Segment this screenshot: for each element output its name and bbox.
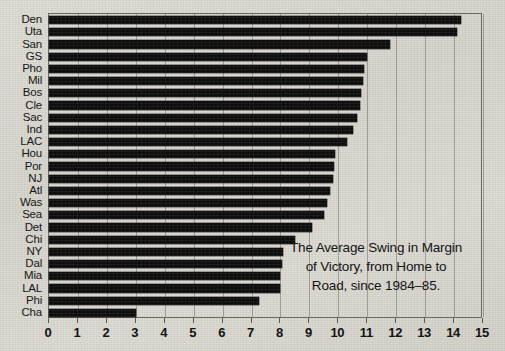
bar-san xyxy=(49,40,390,48)
x-tick-3 xyxy=(135,318,136,323)
bar-row xyxy=(49,65,481,73)
bar-ny xyxy=(49,248,283,256)
bar-row xyxy=(49,53,481,61)
x-tick-label-3: 3 xyxy=(131,325,138,340)
x-tick-label-9: 9 xyxy=(305,325,312,340)
bar-row xyxy=(49,175,481,183)
bar-row xyxy=(49,211,481,219)
caption-line-3: Road, since 1984–85. xyxy=(262,276,490,295)
bar-atl xyxy=(49,187,330,195)
x-tick-1 xyxy=(77,318,78,323)
bar-sea xyxy=(49,211,324,219)
bar-hou xyxy=(49,150,335,158)
x-tick-label-10: 10 xyxy=(330,325,344,340)
bar-row xyxy=(49,101,481,109)
y-tick-label-san: San xyxy=(22,38,42,50)
y-tick-label-was: Was xyxy=(20,196,42,208)
y-tick-label-dal: Dal xyxy=(25,257,42,269)
x-tick-label-13: 13 xyxy=(417,325,431,340)
bar-ind xyxy=(49,126,353,134)
x-tick-label-15: 15 xyxy=(475,325,489,340)
bar-row xyxy=(49,40,481,48)
caption-line-1: The Average Swing in Margin xyxy=(262,238,490,257)
bar-uta xyxy=(49,28,457,36)
bar-det xyxy=(49,223,312,231)
bar-mil xyxy=(49,77,363,85)
x-tick-label-14: 14 xyxy=(446,325,460,340)
x-tick-12 xyxy=(395,318,396,323)
bar-chi xyxy=(49,236,295,244)
bar-row xyxy=(49,114,481,122)
bar-row xyxy=(49,187,481,195)
x-tick-11 xyxy=(366,318,367,323)
bar-sac xyxy=(49,114,357,122)
y-tick-label-pho: Pho xyxy=(22,62,42,74)
x-tick-10 xyxy=(337,318,338,323)
y-tick-label-sea: Sea xyxy=(22,208,42,220)
bar-gs xyxy=(49,53,367,61)
x-tick-0 xyxy=(48,318,49,323)
y-tick-label-atl: Atl xyxy=(29,184,42,196)
y-tick-label-den: Den xyxy=(22,13,43,25)
bar-row xyxy=(49,223,481,231)
x-tick-label-5: 5 xyxy=(189,325,196,340)
y-tick-label-nj: NJ xyxy=(28,172,42,184)
x-tick-label-11: 11 xyxy=(360,325,373,340)
x-tick-7 xyxy=(251,318,252,323)
bar-lac xyxy=(49,138,347,146)
bar-row xyxy=(49,150,481,158)
x-tick-5 xyxy=(193,318,194,323)
bar-row xyxy=(49,138,481,146)
x-tick-4 xyxy=(164,318,165,323)
x-tick-9 xyxy=(308,318,309,323)
y-tick-label-mia: Mia xyxy=(24,269,42,281)
y-tick-label-det: Det xyxy=(25,221,42,233)
x-tick-label-1: 1 xyxy=(73,325,80,340)
bar-nj xyxy=(49,175,333,183)
bar-lal xyxy=(49,284,280,292)
chart-caption: The Average Swing in Margin of Victory, … xyxy=(262,238,490,295)
x-tick-label-6: 6 xyxy=(218,325,225,340)
bar-row xyxy=(49,199,481,207)
y-tick-label-hou: Hou xyxy=(22,147,43,159)
x-axis: 0123456789101112131415 xyxy=(0,318,505,351)
bar-den xyxy=(49,16,461,24)
bar-row xyxy=(49,297,481,305)
y-tick-label-cha: Cha xyxy=(22,306,43,318)
x-tick-label-4: 4 xyxy=(160,325,167,340)
bar-row xyxy=(49,89,481,97)
bar-cha xyxy=(49,309,136,317)
x-tick-label-8: 8 xyxy=(276,325,283,340)
bar-row xyxy=(49,309,481,317)
caption-line-2: of Victory, from Home to xyxy=(262,257,490,276)
bar-phi xyxy=(49,297,259,305)
x-tick-15 xyxy=(482,318,483,323)
x-tick-13 xyxy=(424,318,425,323)
chart-page: DenUtaSanGSPhoMilBosCleSacIndLACHouPorNJ… xyxy=(0,0,505,351)
y-axis-labels: DenUtaSanGSPhoMilBosCleSacIndLACHouPorNJ… xyxy=(0,13,45,318)
y-tick-label-sac: Sac xyxy=(23,111,42,123)
y-tick-label-cle: Cle xyxy=(25,99,42,111)
x-tick-label-2: 2 xyxy=(102,325,109,340)
y-tick-label-uta: Uta xyxy=(25,25,42,37)
bar-bos xyxy=(49,89,361,97)
y-tick-label-lac: LAC xyxy=(20,135,42,147)
bar-row xyxy=(49,28,481,36)
x-tick-8 xyxy=(279,318,280,323)
bar-row xyxy=(49,162,481,170)
x-tick-label-12: 12 xyxy=(388,325,402,340)
y-tick-label-ny: NY xyxy=(26,245,42,257)
x-tick-label-7: 7 xyxy=(247,325,254,340)
x-tick-6 xyxy=(222,318,223,323)
bar-cle xyxy=(49,101,360,109)
x-tick-14 xyxy=(453,318,454,323)
y-tick-label-mil: Mil xyxy=(28,74,42,86)
x-tick-label-0: 0 xyxy=(45,325,52,340)
bar-mia xyxy=(49,272,280,280)
y-tick-label-por: Por xyxy=(25,160,42,172)
bar-pho xyxy=(49,65,364,73)
y-tick-label-phi: Phi xyxy=(26,294,42,306)
y-tick-label-lal: LAL xyxy=(22,282,42,294)
bar-dal xyxy=(49,260,282,268)
bar-was xyxy=(49,199,327,207)
